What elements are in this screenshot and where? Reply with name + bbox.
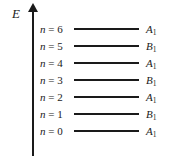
level-quantum-number-label: n = 2 (40, 92, 73, 103)
level-symmetry-label: B1 (146, 109, 156, 120)
level-symmetry-letter: B (146, 74, 153, 86)
energy-level-line (74, 62, 139, 64)
energy-level-row: n = 5B1 (40, 39, 173, 53)
level-symmetry-label: B1 (146, 41, 156, 52)
level-symmetry-subscript: 1 (153, 113, 157, 122)
level-symmetry-letter: B (146, 40, 153, 52)
energy-level-row: n = 3B1 (40, 73, 173, 87)
energy-level-line (74, 79, 139, 81)
energy-level-line (74, 28, 139, 30)
level-symmetry-label: A1 (146, 92, 156, 103)
energy-level-row: n = 6A1 (40, 22, 173, 36)
energy-level-row: n = 0A1 (40, 124, 173, 138)
energy-level-line (74, 130, 139, 132)
energy-level-row: n = 4A1 (40, 56, 173, 70)
energy-level-line (74, 113, 139, 115)
level-symmetry-label: B1 (146, 75, 156, 86)
level-quantum-number-label: n = 0 (40, 126, 73, 137)
level-quantum-number-label: n = 4 (40, 58, 73, 69)
level-quantum-number-label: n = 1 (40, 109, 73, 120)
energy-level-diagram: E n = 6A1n = 5B1n = 4A1n = 3B1n = 2A1n =… (0, 0, 173, 159)
level-symmetry-subscript: 1 (153, 96, 157, 105)
level-symmetry-subscript: 1 (153, 45, 157, 54)
level-symmetry-subscript: 1 (153, 62, 157, 71)
level-symmetry-letter: A (146, 23, 153, 35)
energy-level-row: n = 2A1 (40, 90, 173, 104)
level-symmetry-label: A1 (146, 58, 156, 69)
level-symmetry-subscript: 1 (153, 28, 157, 37)
level-symmetry-label: A1 (146, 126, 156, 137)
level-symmetry-label: A1 (146, 24, 156, 35)
level-symmetry-letter: A (146, 125, 153, 137)
energy-level-line (74, 96, 139, 98)
energy-levels-group: n = 6A1n = 5B1n = 4A1n = 3B1n = 2A1n = 1… (0, 0, 173, 159)
energy-level-row: n = 1B1 (40, 107, 173, 121)
level-symmetry-letter: B (146, 108, 153, 120)
level-symmetry-letter: A (146, 57, 153, 69)
level-symmetry-letter: A (146, 91, 153, 103)
level-quantum-number-label: n = 6 (40, 24, 73, 35)
level-symmetry-subscript: 1 (153, 79, 157, 88)
energy-level-line (74, 45, 139, 47)
level-quantum-number-label: n = 5 (40, 41, 73, 52)
level-symmetry-subscript: 1 (153, 130, 157, 139)
level-quantum-number-label: n = 3 (40, 75, 73, 86)
